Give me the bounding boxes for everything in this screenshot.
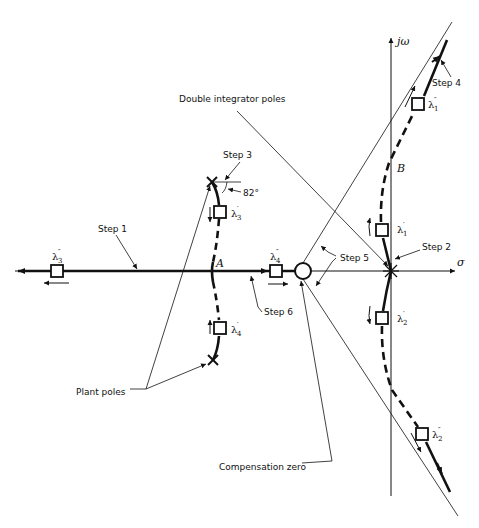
angle-label: 82° — [243, 188, 259, 198]
pole-label-lambda2p: λ 2 ′ — [397, 310, 407, 327]
compensation-zero-tick — [302, 461, 332, 463]
double-integrator-poles-marker — [383, 263, 399, 279]
point-a-label: A — [215, 257, 224, 270]
step5-label: Step 5 — [340, 253, 369, 263]
pole-box-lambda4pp — [270, 265, 282, 277]
svg-text:″: ″ — [58, 248, 61, 256]
svg-text:2: 2 — [403, 319, 407, 327]
pole-label-lambda1p: λ 1 ′ — [397, 221, 407, 238]
svg-text:3: 3 — [58, 257, 62, 265]
real-axis-label: σ — [457, 256, 465, 269]
locus-upper-solid-near — [383, 238, 391, 271]
locus-left-upper-dashed — [213, 219, 219, 262]
pole-label-lambda2pp: λ 2 ″ — [432, 426, 442, 443]
double-integrator-leader — [237, 111, 388, 266]
svg-text:″: ″ — [438, 426, 441, 434]
pole-label-lambda3pp: λ 3 ″ — [52, 248, 62, 265]
svg-text:2: 2 — [438, 435, 442, 443]
pole-box-lambda2p — [376, 312, 388, 324]
step6-label: Step 6 — [264, 307, 293, 317]
step4-leader — [441, 60, 451, 77]
angle-arc — [222, 182, 227, 193]
compensation-zero-marker — [295, 263, 311, 279]
step3-label: Step 3 — [223, 150, 252, 160]
pole-label-lambda4pp: λ 4 ″ — [270, 248, 281, 265]
step1-leader — [116, 235, 137, 269]
angle-leader — [228, 189, 241, 192]
locus-left-center — [212, 262, 213, 282]
step2-leader — [395, 250, 420, 259]
pole-box-lambda1p — [376, 224, 388, 236]
step1-label: Step 1 — [98, 224, 127, 234]
locus-lower-solid-near — [383, 271, 391, 311]
step6-leader — [251, 276, 262, 312]
plant-poles-label: Plant poles — [76, 387, 126, 397]
root-locus-diagram: σ jω — [0, 0, 479, 528]
step5-leader-lower — [316, 258, 336, 286]
svg-text:4: 4 — [276, 257, 281, 265]
svg-text:′: ′ — [237, 205, 239, 213]
svg-text:3: 3 — [237, 214, 241, 222]
double-integrator-poles-label: Double integrator poles — [179, 94, 286, 104]
pole-label-lambda4p: λ 4 ′ — [231, 321, 242, 338]
svg-text:′: ′ — [237, 321, 239, 329]
svg-text:1: 1 — [434, 105, 438, 113]
svg-text:″: ″ — [434, 96, 437, 104]
pole-box-lambda4p — [214, 322, 226, 334]
dir-arrow-lambda1p — [369, 218, 370, 236]
svg-text:″: ″ — [276, 248, 279, 256]
imag-axis-label: jω — [394, 35, 409, 48]
svg-text:1: 1 — [403, 230, 407, 238]
pole-box-lambda3p — [214, 206, 226, 218]
step4-label: Step 4 — [432, 78, 461, 88]
compensation-zero-label: Compensation zero — [219, 462, 307, 472]
step5-leader-upper — [321, 246, 336, 256]
step2-label: Step 2 — [422, 242, 451, 252]
pole-box-lambda3pp — [51, 265, 63, 277]
plant-poles-leader-upper — [146, 186, 210, 389]
step3-leader — [225, 162, 240, 180]
svg-text:4: 4 — [237, 330, 242, 338]
locus-lower-dashed — [382, 326, 418, 427]
pole-label-lambda3p: λ 3 ′ — [231, 205, 241, 222]
pole-label-lambda1pp: λ 1 ″ — [428, 96, 438, 113]
plant-pole-lower-marker — [208, 355, 218, 365]
compensation-zero-leader — [301, 281, 332, 461]
point-b-label: B — [396, 162, 405, 175]
pole-box-lambda1pp — [412, 98, 424, 110]
dir-arrow-lambda2p — [369, 306, 370, 324]
svg-text:′: ′ — [403, 221, 405, 229]
svg-text:′: ′ — [403, 310, 405, 318]
locus-left-lower-dashed — [213, 282, 219, 320]
pole-box-lambda2pp — [416, 428, 428, 440]
plant-poles-leader-lower — [146, 364, 206, 389]
